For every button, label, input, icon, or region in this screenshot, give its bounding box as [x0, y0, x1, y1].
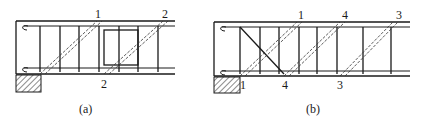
- panel-a: 1 2 2 (a): [16, 7, 175, 116]
- label-3-bottom-b: 3: [337, 78, 343, 92]
- label-2-bottom-a: 2: [101, 77, 107, 91]
- bent-up-bar-3-b: [340, 22, 398, 76]
- label-1-bottom-b: 1: [240, 78, 246, 92]
- caption-a: (a): [79, 102, 92, 116]
- diagonal-bar-b: [240, 27, 284, 74]
- beam-reinforcement-diagram: 1 2 2 (a): [0, 0, 421, 127]
- label-4-top-b: 4: [342, 8, 348, 22]
- support-hatch-b: [214, 77, 240, 93]
- panel-b: 1 4 3 1 4 3 (b): [214, 8, 410, 116]
- label-3-top-b: 3: [396, 8, 402, 22]
- caption-b: (b): [306, 102, 320, 116]
- bent-up-bar-4-b: [284, 22, 345, 76]
- inner-box-bar-a: [104, 30, 138, 65]
- support-hatch-a: [16, 75, 41, 92]
- label-4-bottom-b: 4: [282, 78, 288, 92]
- label-1-top-b: 1: [298, 8, 304, 22]
- stirrups-a: [40, 26, 158, 72]
- label-2-top-a: 2: [162, 7, 168, 21]
- bent-up-bar-1-a: [40, 21, 102, 74]
- label-1-top-a: 1: [95, 7, 101, 21]
